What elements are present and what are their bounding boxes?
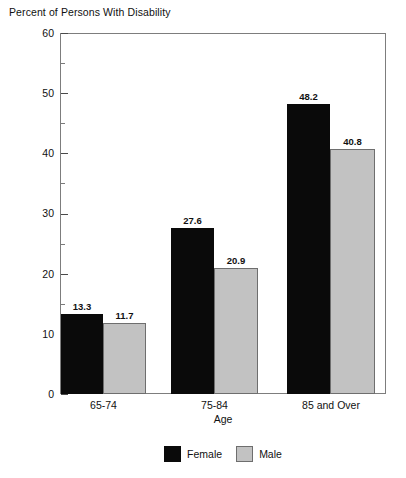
bar-value-female-85-and-over: 48.2	[287, 92, 330, 102]
bar-female-75-84	[171, 228, 214, 394]
bar-value-male-65-74: 11.7	[103, 311, 146, 321]
x-axis-title: Age	[60, 413, 386, 425]
legend-swatch-male-icon	[236, 446, 253, 462]
disability-bar-chart: Percent of Persons With Disability 60 50…	[0, 0, 406, 478]
bar-male-65-74	[103, 323, 146, 394]
x-category-label-75-84: 75-84	[171, 399, 258, 411]
bar-value-female-65-74: 13.3	[61, 302, 103, 312]
chart-legend: Female Male	[60, 446, 386, 462]
bar-female-85-and-over	[287, 104, 330, 394]
bar-male-85-and-over	[330, 149, 375, 394]
bar-value-female-75-84: 27.6	[171, 216, 214, 226]
bar-value-male-85-and-over: 40.8	[330, 137, 375, 147]
legend-item-female: Female	[164, 446, 222, 462]
legend-swatch-female-icon	[164, 446, 181, 462]
legend-item-male: Male	[236, 446, 282, 462]
bar-female-65-74	[61, 314, 103, 394]
legend-label-female: Female	[187, 449, 222, 460]
legend-label-male: Male	[259, 449, 282, 460]
bar-male-75-84	[214, 268, 258, 394]
bar-value-male-75-84: 20.9	[214, 256, 258, 266]
x-category-label-85-and-over: 85 and Over	[287, 399, 375, 411]
x-category-label-65-74: 65-74	[61, 399, 146, 411]
